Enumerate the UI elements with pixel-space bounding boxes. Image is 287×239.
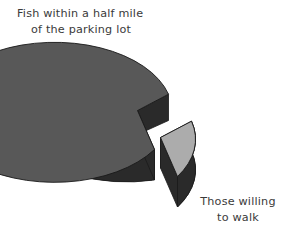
label-walk-line2: to walk xyxy=(196,210,280,226)
pie-chart-figure: Fish within a half mile of the parking l… xyxy=(0,0,287,239)
label-walk-line1: Those willing xyxy=(196,194,280,210)
label-fish-within-half-mile: Fish within a half mile of the parking l… xyxy=(17,6,143,38)
pie-slice-exploded xyxy=(161,121,196,207)
label-those-willing-to-walk: Those willing to walk xyxy=(196,194,280,226)
label-fish-line2: of the parking lot xyxy=(17,22,143,38)
label-fish-line1: Fish within a half mile xyxy=(17,6,143,22)
pie-slice-main xyxy=(0,42,168,182)
